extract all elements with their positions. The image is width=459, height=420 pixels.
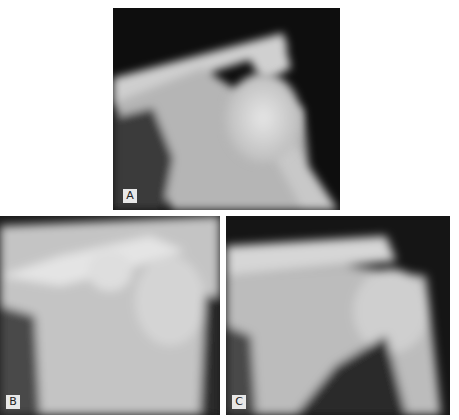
xray-panel-b: B [0, 216, 220, 415]
xray-panel-a: A [113, 8, 340, 210]
panel-label-a: A [123, 189, 137, 203]
xray-panel-c: C [226, 216, 450, 415]
panel-label-b: B [6, 395, 20, 409]
xray-image-b [0, 216, 220, 415]
xray-image-a [113, 8, 340, 210]
xray-image-c [226, 216, 450, 415]
panel-label-c: C [232, 395, 246, 409]
